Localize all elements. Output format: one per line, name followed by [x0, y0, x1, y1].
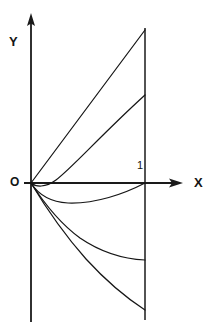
plot-canvas: [0, 0, 215, 328]
curve-family-diagram: Y O 1 X: [0, 0, 215, 328]
y-axis-label: Y: [9, 35, 18, 48]
x-axis-label: X: [194, 176, 203, 189]
origin-label: O: [10, 176, 19, 188]
x-tick-label-one: 1: [137, 160, 143, 171]
plot-background: [0, 0, 215, 328]
